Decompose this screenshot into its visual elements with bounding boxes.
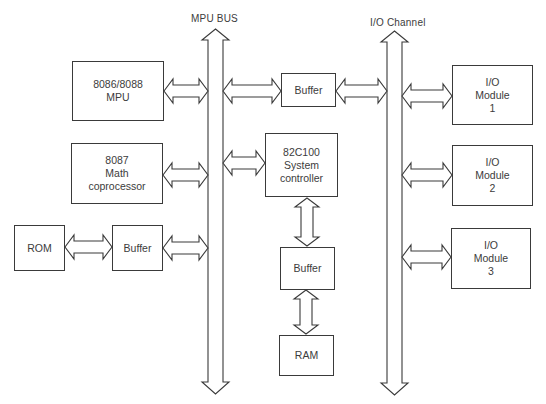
buffer-to-mpu-bus-arrow-icon	[163, 236, 208, 260]
mpu-block-line-1: 8086/8088	[93, 78, 143, 91]
system-controller-line-2: System	[284, 159, 319, 172]
system-controller-block: 82C100 System controller	[265, 133, 338, 197]
io-module-1-line-3: 1	[490, 102, 496, 115]
math-coprocessor-block: 8087 Math coprocessor	[71, 143, 163, 204]
system-controller-line-1: 82C100	[283, 146, 320, 159]
io-module-3-block: I/O Module 3	[451, 228, 531, 289]
io-channel-arrow-icon	[381, 31, 408, 395]
top-buffer-label: Buffer	[295, 84, 323, 97]
rom-to-buffer-arrow-icon	[65, 235, 112, 259]
top-buffer-block: Buffer	[281, 73, 336, 107]
io-channel-label: I/O Channel	[370, 17, 426, 28]
io-module-1-line-1: I/O	[485, 76, 499, 89]
rom-buffer-label: Buffer	[124, 242, 152, 255]
ram-buffer-block: Buffer	[280, 247, 335, 290]
mpu-bus-arrow-icon	[202, 29, 229, 394]
io-module-2-block: I/O Module 2	[452, 145, 533, 206]
math-coprocessor-line-1: 8087	[105, 154, 128, 167]
io-module-1-line-2: Module	[475, 89, 509, 102]
io-module-3-line-2: Module	[474, 252, 508, 265]
ram-label: RAM	[295, 349, 318, 362]
system-controller-line-3: controller	[280, 172, 323, 185]
mpu-bus-to-system-controller-arrow-icon	[223, 151, 265, 175]
coprocessor-to-mpu-bus-arrow-icon	[163, 163, 208, 187]
rom-label: ROM	[27, 242, 52, 255]
rom-buffer-block: Buffer	[112, 225, 163, 271]
math-coprocessor-line-3: coprocessor	[88, 180, 145, 193]
ram-buffer-label: Buffer	[294, 262, 322, 275]
math-coprocessor-line-2: Math	[105, 167, 128, 180]
ram-buffer-to-ram-arrow-icon	[294, 290, 318, 334]
io-module-2-line-2: Module	[475, 169, 509, 182]
mpu-bus-to-top-buffer-arrow-icon	[223, 79, 281, 103]
io-module-1-block: I/O Module 1	[452, 65, 533, 125]
mpu-bus-label: MPU BUS	[191, 13, 238, 24]
top-buffer-to-io-channel-arrow-icon	[336, 79, 387, 103]
mpu-to-mpu-bus-arrow-icon	[164, 79, 208, 103]
io-module-2-line-1: I/O	[485, 156, 499, 169]
io-module-2-line-3: 2	[490, 182, 496, 195]
io-channel-to-module-1-arrow-icon	[402, 84, 452, 108]
mpu-block-line-2: MPU	[106, 91, 129, 104]
mpu-block: 8086/8088 MPU	[72, 61, 164, 121]
rom-block: ROM	[14, 225, 65, 271]
io-module-3-line-3: 3	[488, 265, 494, 278]
io-module-3-line-1: I/O	[484, 239, 498, 252]
system-controller-to-ram-buffer-arrow-icon	[295, 198, 319, 246]
io-channel-to-module-2-arrow-icon	[402, 163, 452, 187]
io-channel-to-module-3-arrow-icon	[402, 245, 451, 269]
ram-block: RAM	[279, 335, 334, 376]
